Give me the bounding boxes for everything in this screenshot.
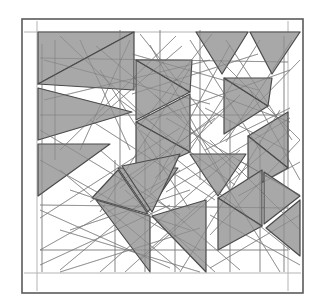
figure-container: Abstract geometric figure: gray triangle… xyxy=(0,0,326,307)
geometric-diagram-svg: Abstract geometric figure: gray triangle… xyxy=(0,0,326,307)
